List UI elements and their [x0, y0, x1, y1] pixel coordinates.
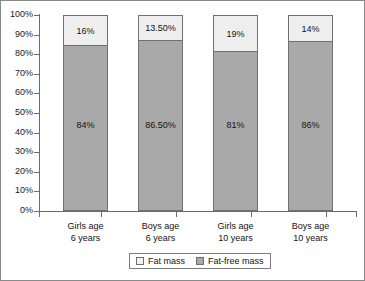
stacked-bar: 13.50%86.50%: [138, 15, 183, 211]
bar-segment-label: 86%: [289, 120, 332, 130]
fat-free-mass-swatch: [196, 257, 204, 265]
category-label-line: 10 years: [193, 233, 279, 245]
y-axis-tick-label: 30%: [1, 147, 33, 156]
y-axis-tick-label: 10%: [1, 186, 33, 195]
x-axis-line: [39, 211, 357, 212]
bar-segment-fat-free-mass: 86.50%: [138, 41, 183, 211]
bar-segment-label: 13.50%: [145, 23, 176, 33]
category-label: Boys age6 years: [118, 221, 204, 244]
bar-segment-label: 81%: [214, 120, 257, 130]
category-label-line: Boys age: [268, 221, 354, 233]
bar-segment-fat-mass: 13.50%: [138, 15, 183, 41]
category-label: Boys age10 years: [268, 221, 354, 244]
y-axis-tick: [34, 172, 39, 173]
x-axis-tick: [251, 212, 252, 217]
y-axis-tick: [34, 54, 39, 55]
bar-segment-label: 16%: [76, 26, 94, 36]
y-axis-tick: [34, 74, 39, 75]
stacked-bar: 16%84%: [63, 15, 108, 211]
category-label-line: Girls age: [193, 221, 279, 233]
bar-segment-fat-mass: 14%: [288, 15, 333, 42]
legend-entry: Fat mass: [136, 256, 185, 266]
y-axis-tick: [34, 15, 39, 16]
bar-segment-fat-free-mass: 84%: [63, 46, 108, 211]
x-axis-tick: [176, 212, 177, 217]
x-axis-tick: [356, 212, 357, 217]
y-axis-tick: [34, 152, 39, 153]
category-label-line: 6 years: [43, 233, 129, 245]
y-axis-tick-label: 70%: [1, 69, 33, 78]
x-axis-tick: [326, 212, 327, 217]
category-label: Girls age10 years: [193, 221, 279, 244]
bar-segment-label: 14%: [301, 24, 319, 34]
bar-segment-fat-mass: 19%: [213, 15, 258, 52]
bar-segment-label: 19%: [226, 29, 244, 39]
chart-screenshot: 0%10%20%30%40%50%60%70%80%90%100% 16%84%…: [0, 0, 365, 281]
y-axis-tick-label: 50%: [1, 108, 33, 117]
category-label-line: 10 years: [268, 233, 354, 245]
y-axis-tick: [34, 191, 39, 192]
stacked-bar: 14%86%: [288, 15, 333, 211]
y-axis-tick: [34, 133, 39, 134]
plot-area: 16%84%13.50%86.50%19%81%14%86%: [40, 15, 357, 211]
bar-segment-label: 86.50%: [139, 120, 182, 130]
bar-segment-fat-mass: 16%: [63, 15, 108, 46]
y-axis-tick-label: 60%: [1, 88, 33, 97]
stacked-bar: 19%81%: [213, 15, 258, 211]
x-axis-tick: [101, 212, 102, 217]
fat-mass-swatch: [136, 257, 144, 265]
legend-label: Fat-free mass: [208, 256, 264, 266]
y-axis-tick: [34, 93, 39, 94]
y-axis-tick: [34, 113, 39, 114]
category-label-line: Girls age: [43, 221, 129, 233]
legend-label: Fat mass: [148, 256, 185, 266]
y-axis-tick-label: 80%: [1, 49, 33, 58]
y-axis-tick-label: 0%: [1, 206, 33, 215]
category-label-line: Boys age: [118, 221, 204, 233]
legend-entry: Fat-free mass: [196, 256, 264, 266]
bar-segment-fat-free-mass: 86%: [288, 42, 333, 211]
x-axis-tick: [39, 212, 40, 217]
bar-segment-label: 84%: [64, 120, 107, 130]
category-label: Girls age6 years: [43, 221, 129, 244]
category-label-line: 6 years: [118, 233, 204, 245]
y-axis-tick: [34, 35, 39, 36]
y-axis-tick-label: 20%: [1, 167, 33, 176]
bar-segment-fat-free-mass: 81%: [213, 52, 258, 211]
y-axis-tick-label: 90%: [1, 30, 33, 39]
y-axis-tick-label: 100%: [1, 10, 33, 19]
chart-legend: Fat massFat-free mass: [129, 253, 271, 269]
y-axis-tick-label: 40%: [1, 128, 33, 137]
